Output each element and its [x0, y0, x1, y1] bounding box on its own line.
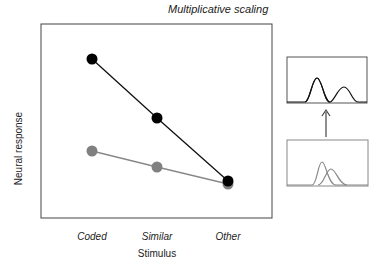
scaled-point-other: [223, 176, 234, 187]
arrow-up-icon: [322, 110, 330, 137]
x-axis-label: Stimulus: [138, 248, 176, 259]
figure-canvas: [0, 0, 387, 265]
scaled-point-similar: [152, 113, 163, 124]
x-tick-coded: Coded: [77, 231, 106, 242]
figure-title: Multiplicative scaling: [168, 3, 268, 15]
x-tick-similar: Similar: [142, 231, 173, 242]
baseline-point-similar: [152, 162, 163, 173]
baseline-point-coded: [87, 146, 98, 157]
inset-scaled-tuning: [287, 57, 367, 103]
y-axis-label: Neural response: [13, 99, 24, 199]
inset-baseline-tuning: [287, 140, 368, 186]
scaled-point-coded: [87, 54, 98, 65]
x-tick-other: Other: [215, 231, 240, 242]
